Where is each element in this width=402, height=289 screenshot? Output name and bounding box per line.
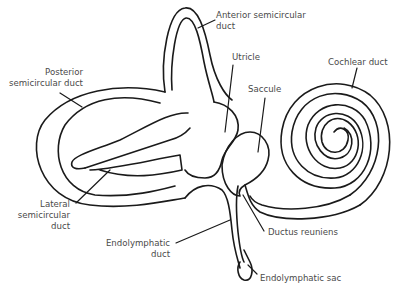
- cochlear-duct-spiral-outer: [281, 84, 390, 205]
- lateral-semicircular-duct-lower: [90, 155, 182, 176]
- label-lateral-semicircular-duct: Lateral semicircular duct: [18, 199, 70, 232]
- lateral-semicircular-duct-upper: [72, 113, 188, 169]
- posterior-semicircular-duct-inner: [58, 98, 175, 196]
- endolymphatic-duct-inner: [237, 186, 245, 262]
- label-ductus-reuniens: Ductus reuniens: [268, 227, 338, 238]
- leader-saccule: [258, 98, 265, 152]
- utricle: [185, 102, 238, 178]
- label-endolymphatic-sac: Endolymphatic sac: [260, 273, 341, 284]
- label-endolymphatic-duct: Endolymphatic duct: [106, 238, 170, 260]
- vestibule-lower: [185, 186, 240, 268]
- ductus-reuniens-inner: [250, 195, 350, 209]
- label-anterior-semicircular-duct: Anterior semicircular duct: [216, 10, 306, 32]
- inner-ear-diagram: [0, 0, 402, 289]
- leader-lateral: [76, 170, 110, 203]
- label-saccule: Saccule: [248, 84, 281, 95]
- leader-utricle: [225, 65, 233, 132]
- cochlear-duct-spiral-inner: [291, 94, 378, 195]
- label-utricle: Utricle: [232, 52, 260, 63]
- label-cochlear-duct: Cochlear duct: [328, 57, 388, 68]
- anterior-semicircular-duct-inner: [172, 18, 214, 102]
- ductus-reuniens: [245, 185, 360, 219]
- label-posterior-semicircular-duct: Posterior semicircular duct: [9, 67, 83, 89]
- leader-cochlear: [352, 68, 357, 88]
- leader-endolymphatic-duct: [176, 220, 230, 243]
